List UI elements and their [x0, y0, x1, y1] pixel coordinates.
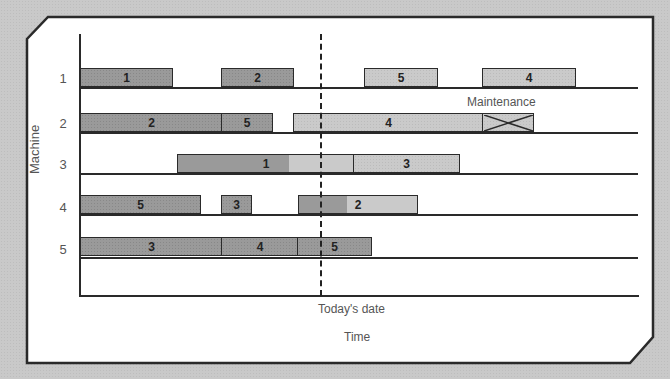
machine-label-2: 2 — [53, 116, 73, 131]
machine-label-4: 4 — [53, 200, 73, 215]
maintenance-label: Maintenance — [467, 95, 536, 109]
maintenance-block — [482, 113, 534, 132]
job-bar: 5 — [221, 113, 273, 132]
x-axis-line — [79, 295, 639, 297]
cross-icon — [484, 115, 533, 131]
today-label: Today's date — [318, 302, 385, 316]
job-bar: 3 — [353, 154, 460, 173]
baseline-machine-2 — [80, 132, 638, 134]
x-axis-label: Time — [344, 330, 370, 344]
job-bar: 2 — [298, 195, 418, 214]
job-bar: 4 — [482, 68, 576, 87]
machine-label-3: 3 — [53, 157, 73, 172]
job-bar: 3 — [80, 237, 223, 256]
job-bar: 1 — [80, 68, 173, 87]
job-bar: 2 — [221, 68, 294, 87]
job-bar: 5 — [364, 68, 438, 87]
gantt-chart: Machine 1 2 3 4 5 1 2 5 4 2 5 4 Maintena… — [0, 0, 670, 379]
job-bar: 4 — [221, 237, 299, 256]
job-bar: 5 — [80, 195, 201, 214]
baseline-machine-4 — [80, 214, 638, 216]
baseline-machine-1 — [80, 87, 638, 89]
baseline-machine-5 — [80, 257, 638, 259]
machine-label-1: 1 — [53, 71, 73, 86]
job-bar: 5 — [297, 237, 372, 256]
today-dashed-line — [320, 34, 322, 296]
job-bar: 1 — [177, 154, 355, 173]
baseline-machine-3 — [80, 173, 638, 175]
job-bar: 3 — [221, 195, 252, 214]
job-bar: 2 — [80, 113, 223, 132]
y-axis-label: Machine — [27, 125, 42, 174]
machine-label-5: 5 — [53, 242, 73, 257]
